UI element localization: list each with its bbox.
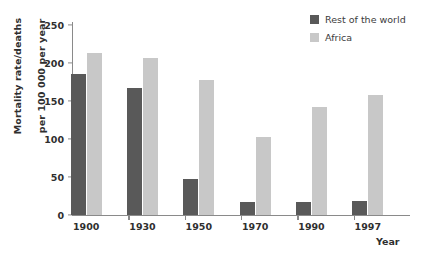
x-axis-tick-mark [185,215,186,220]
legend-swatch-icon [310,15,319,24]
x-axis-tick-label: 1900 [56,221,116,232]
x-axis-tick-label: 1997 [338,221,398,232]
bar [256,137,271,215]
y-axis-tick-label: 100 [30,134,64,145]
bar [87,53,102,215]
bar [183,179,198,215]
y-axis-title-line-1: Mortality rate/deaths [12,0,24,176]
y-axis-tick-label: 0 [30,210,64,221]
bar [240,202,255,215]
legend-item: Rest of the world [310,12,406,27]
bar [312,107,327,215]
x-axis-tick-mark [241,215,242,220]
legend-label: Rest of the world [325,14,406,25]
bar [143,58,158,215]
y-axis-tick-label: 250 [30,20,64,31]
bar [199,80,214,215]
bar [352,201,367,215]
bar [368,95,383,215]
chart-legend: Rest of the worldAfrica [310,12,406,48]
bar-chart: Mortality rate/deaths per 100 000 per ye… [0,0,424,257]
y-axis-tick-label: 200 [30,58,64,69]
bar [296,202,311,215]
bar [127,88,142,215]
x-axis-tick-label: 1990 [282,221,342,232]
x-axis-tick-label: 1950 [169,221,229,232]
x-axis-tick-mark [297,215,298,220]
x-axis-tick-label: 1930 [113,221,173,232]
legend-swatch-icon [310,33,319,42]
legend-item: Africa [310,30,406,45]
x-axis-title: Year [376,236,400,247]
y-axis-tick-label: 150 [30,96,64,107]
plot-area [72,25,410,215]
legend-label: Africa [325,32,352,43]
y-axis-tick-label: 50 [30,172,64,183]
x-axis-tick-mark [354,215,355,220]
x-axis-tick-mark [128,215,129,220]
bar [71,74,86,215]
x-axis-tick-label: 1970 [225,221,285,232]
